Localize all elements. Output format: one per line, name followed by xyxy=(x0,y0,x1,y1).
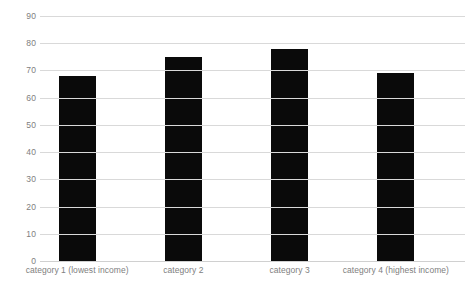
y-tick-label: 60 xyxy=(6,94,36,103)
x-tick-label-category-4: category 4 (highest income) xyxy=(321,266,471,275)
gridline xyxy=(40,16,465,17)
y-tick-label: 20 xyxy=(6,203,36,212)
gridline xyxy=(40,125,465,126)
y-tick-label: 30 xyxy=(6,175,36,184)
plot-area xyxy=(40,16,465,261)
gridline xyxy=(40,261,465,262)
gridline xyxy=(40,98,465,99)
gridline xyxy=(40,179,465,180)
y-tick-label: 40 xyxy=(6,148,36,157)
y-tick-label: 90 xyxy=(6,12,36,21)
y-tick-label: 10 xyxy=(6,230,36,239)
bar-chart: 90 80 70 60 50 40 30 20 10 0 category 1 … xyxy=(0,0,472,286)
gridline xyxy=(40,152,465,153)
y-tick-label: 50 xyxy=(6,121,36,130)
gridline xyxy=(40,234,465,235)
gridline xyxy=(40,207,465,208)
gridline xyxy=(40,43,465,44)
bar-category-2 xyxy=(165,57,202,261)
bars-layer xyxy=(40,16,465,261)
gridline xyxy=(40,70,465,71)
bar-category-3 xyxy=(271,49,308,261)
y-tick-label: 70 xyxy=(6,66,36,75)
y-tick-label: 80 xyxy=(6,39,36,48)
